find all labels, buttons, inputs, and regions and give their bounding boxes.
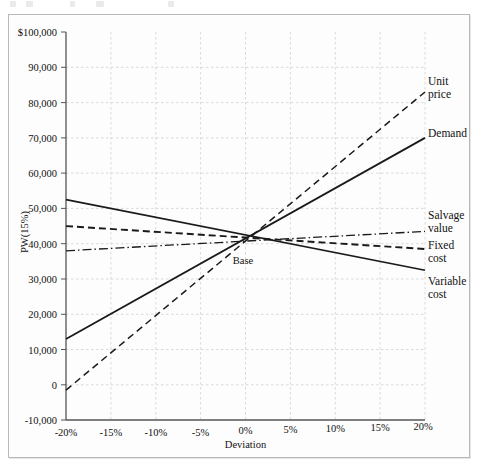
sensitivity-chart: $100,000 90,000 80,000 70,000 60,000 50,… — [0, 0, 480, 469]
base-annotation-label: Base — [233, 255, 254, 266]
y-tick-label-60000: 60,000 — [28, 168, 57, 179]
x-axis-title: Deviation — [225, 439, 267, 450]
series-label-variable-cost-line1: Variable — [428, 275, 466, 287]
x-tick-label-m15: -15% — [100, 427, 123, 438]
sensitivity-plot-svg: $100,000 90,000 80,000 70,000 60,000 50,… — [0, 0, 480, 469]
series-label-fixed-cost-line1: Fixed — [428, 239, 454, 251]
series-label-fixed-cost-line2: cost — [428, 252, 447, 264]
series-label-variable-cost-line2: cost — [428, 288, 447, 300]
y-tick-label-90000: 90,000 — [28, 62, 57, 73]
y-tick-label-20000: 20,000 — [28, 309, 57, 320]
series-label-salvage-value-line1: Salvage — [428, 209, 464, 222]
series-line-unit-price — [66, 92, 425, 390]
series-label-variable-cost: Variable cost — [428, 275, 466, 300]
x-tick-label-p10: 10% — [326, 423, 346, 434]
y-tick-label-30000: 30,000 — [28, 274, 57, 285]
series-label-demand: Demand — [428, 127, 467, 139]
series-label-salvage-value: Salvage value — [428, 209, 464, 234]
series-label-unit-price-line2: price — [428, 88, 451, 101]
series-label-fixed-cost: Fixed cost — [428, 239, 454, 264]
y-axis-ticks — [61, 32, 66, 420]
y-tick-label-50000: 50,000 — [28, 203, 57, 214]
y-tick-label-0: 0 — [52, 380, 57, 391]
series-label-unit-price: Unit price — [428, 75, 451, 101]
y-tick-label-70000: 70,000 — [28, 133, 57, 144]
x-tick-label-0: 0% — [239, 425, 253, 436]
series-label-demand-text: Demand — [428, 127, 467, 139]
y-tick-label-m10000: -10,000 — [25, 415, 57, 426]
series-label-salvage-value-line2: value — [428, 222, 453, 234]
grid-lines — [66, 32, 425, 420]
x-tick-label-m20: -20% — [55, 427, 78, 438]
axis-lines — [66, 32, 425, 420]
x-tick-label-p20: 20% — [413, 421, 433, 432]
x-tick-label-m5: -5% — [192, 427, 210, 438]
x-tick-label-p5: 5% — [283, 424, 297, 435]
x-tick-label-m10: -10% — [144, 427, 167, 438]
y-tick-label-100000: $100,000 — [18, 27, 57, 38]
series-label-unit-price-line1: Unit — [428, 75, 449, 87]
y-tick-label-40000: 40,000 — [28, 239, 57, 250]
y-tick-label-10000: 10,000 — [28, 345, 57, 356]
y-axis-title: PW(15%) — [19, 211, 31, 253]
x-axis-tick-labels: -20% -15% -10% -5% 0% 5% 10% 15% 20% — [55, 421, 433, 438]
x-tick-label-p15: 15% — [370, 422, 390, 433]
y-tick-label-80000: 80,000 — [28, 98, 57, 109]
